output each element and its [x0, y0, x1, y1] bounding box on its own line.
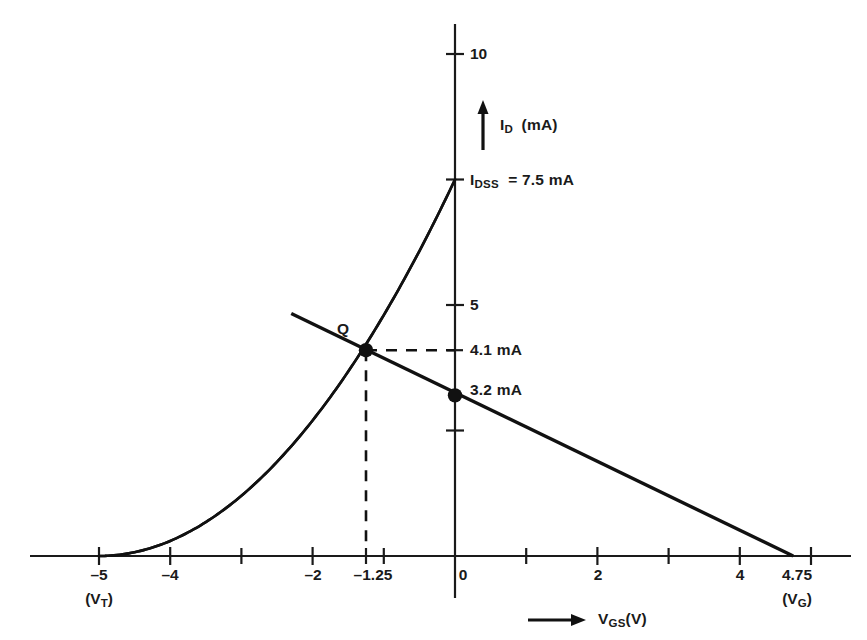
x-axis-title-symbol: V [598, 610, 609, 627]
x-axis-title-unit: (V) [626, 610, 647, 627]
x-tick-label-minus4: –4 [161, 566, 178, 584]
x-tick-label-minus5: –5 [90, 566, 107, 584]
jfet-transfer-characteristic-figure: –5 –4 –2 –1.25 0 2 4 4.75 (VT) (VG) 10 5… [0, 0, 867, 640]
x-axis-title-subscript: GS [609, 617, 626, 629]
threshold-voltage-label: (VT) [85, 590, 113, 608]
y-tick-label-5: 5 [470, 296, 479, 314]
vgs-axis-arrow-icon [528, 614, 586, 626]
y-tick-label-10: 10 [470, 45, 487, 63]
x-axis-title: VGS(V) [598, 610, 647, 628]
vt-open-paren: (V [85, 590, 101, 607]
vt-subscript: T [101, 597, 108, 609]
gate-voltage-label: (VG) [782, 590, 812, 608]
vg-open-paren: (V [782, 590, 798, 607]
idss-symbol: I [470, 171, 475, 188]
x-tick-label-4: 4 [736, 566, 745, 584]
x-tick-label-zero: 0 [459, 566, 468, 584]
idss-value: = 7.5 mA [508, 171, 574, 188]
plot-canvas [0, 0, 867, 640]
x-tick-label-4p75: 4.75 [782, 566, 812, 584]
y-axis-title-unit: (mA) [522, 116, 558, 133]
x-tick-label-minus1p25: –1.25 [354, 566, 393, 584]
vg-close-paren: ) [807, 590, 812, 607]
vg-subscript: G [798, 597, 807, 609]
zero-bias-point-marker [448, 388, 462, 402]
y-axis-title-symbol: I [500, 116, 505, 133]
q-point-label: Q [337, 320, 349, 338]
y-axis-title-subscript: D [505, 123, 514, 135]
current-4p1-annotation: 4.1 mA [470, 341, 522, 359]
vt-close-paren: ) [108, 590, 113, 607]
idss-annotation: IDSS = 7.5 mA [470, 171, 574, 189]
q-point-marker [359, 343, 373, 357]
id-axis-arrow-icon [478, 100, 489, 150]
y-axis-title: ID (mA) [500, 116, 558, 134]
idss-subscript: DSS [475, 178, 499, 190]
x-tick-label-minus2: –2 [304, 566, 321, 584]
current-3p2-annotation: 3.2 mA [470, 381, 522, 399]
x-tick-label-2: 2 [594, 566, 603, 584]
